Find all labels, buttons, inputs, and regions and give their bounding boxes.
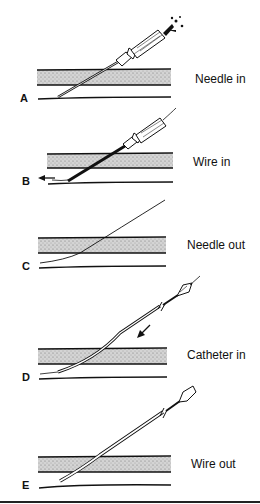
- vessel-wall: [38, 97, 171, 99]
- step-label-c: Needle out: [187, 238, 245, 252]
- arrow-down-left-icon: [137, 325, 150, 338]
- panel-d: [38, 276, 200, 379]
- panel-b: [38, 108, 176, 184]
- panel-c: [38, 200, 166, 268]
- panel-letter-a: A: [20, 92, 28, 104]
- vessel-wall: [39, 377, 167, 379]
- tissue-layer: [38, 349, 167, 364]
- panel-letter-b: B: [22, 175, 30, 187]
- step-label-a: Needle in: [195, 72, 246, 86]
- step-label-d: Catheter in: [187, 348, 246, 362]
- panel-letter-e: E: [22, 479, 29, 491]
- tissue-layer: [37, 70, 171, 85]
- panel-a: [37, 16, 183, 99]
- tissue-layer: [38, 238, 166, 253]
- needle-icon: [58, 30, 165, 97]
- blood-flash-icon: [163, 16, 183, 36]
- panel-letter-c: C: [22, 260, 30, 272]
- panel-letter-d: D: [22, 371, 30, 383]
- vessel-wall: [39, 485, 171, 488]
- panel-e: [38, 386, 196, 488]
- guide-wire: [52, 180, 68, 181]
- step-label-b: Wire in: [193, 155, 230, 169]
- needle-with-wire-icon: [68, 108, 176, 181]
- tissue-layer: [38, 457, 171, 472]
- vessel-wall: [48, 182, 173, 184]
- vessel-wall: [39, 266, 166, 268]
- step-label-e: Wire out: [191, 457, 236, 471]
